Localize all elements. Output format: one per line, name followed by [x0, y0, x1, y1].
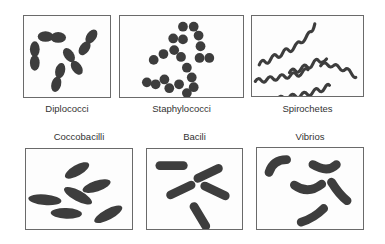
label-staphylococci: Staphylococci: [119, 103, 244, 114]
panel-vibrios: [256, 147, 364, 230]
coccobacilli-illustration: [26, 149, 132, 229]
panel-diplococci: [23, 15, 111, 98]
label-bacili: Bacili: [146, 131, 243, 142]
panel-staphylococci: [119, 15, 244, 98]
panel-bacili: [146, 148, 243, 230]
label-coccobacilli: Coccobacilli: [25, 131, 133, 142]
label-spirochetes: Spirochetes: [251, 103, 364, 114]
panel-spirochetes: [251, 15, 364, 97]
bacili-illustration: [147, 149, 242, 229]
vibrios-illustration: [257, 148, 363, 229]
panel-coccobacilli: [25, 148, 133, 230]
diplococci-illustration: [24, 16, 110, 97]
staphylococci-illustration: [120, 16, 243, 97]
label-vibrios: Vibrios: [256, 131, 364, 142]
label-diplococci: Diplococci: [23, 103, 111, 114]
spirochetes-illustration: [252, 16, 363, 96]
